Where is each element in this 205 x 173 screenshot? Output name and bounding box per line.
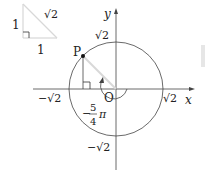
angle-arrow-icon: [99, 77, 104, 83]
x-axis-arrow-icon: [189, 87, 195, 91]
circle-right-label: √2: [163, 92, 177, 105]
angle-pi: π: [98, 108, 107, 121]
triangle-hypotenuse-label: √2: [44, 8, 58, 21]
point-p-dot: [81, 54, 85, 58]
triangle-leg-horizontal-label: 1: [37, 43, 45, 57]
reference-triangle: 1 1 √2: [12, 4, 58, 57]
angle-numerator: 5: [90, 102, 96, 113]
unit-circle-diagram: 1 1 √2 x y O P − 5 4 π √2 −√2 −√2 √2: [0, 0, 205, 173]
triangle-leg-vertical-label: 1: [12, 18, 20, 32]
circle-top-label: √2: [95, 29, 109, 42]
coordinate-axes: x y O: [33, 7, 195, 170]
point-p-label: P: [73, 45, 81, 59]
angle-label: − 5 4 π: [82, 102, 107, 127]
circle-left-label: −√2: [38, 92, 61, 105]
right-angle-mark: [23, 32, 29, 38]
side-gray-bar: [201, 45, 205, 67]
circle-bottom-label: −√2: [87, 141, 110, 154]
x-axis-label: x: [185, 93, 192, 107]
p-right-angle-mark: [83, 82, 90, 89]
angle-denominator: 4: [90, 116, 96, 127]
y-axis-arrow-icon: [114, 8, 118, 14]
point-p-construction: P: [73, 45, 116, 89]
radius-to-p: [83, 56, 116, 89]
y-axis-label: y: [103, 7, 111, 21]
